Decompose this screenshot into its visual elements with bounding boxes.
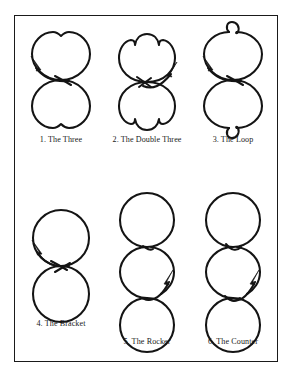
figure-cell-2: 2. The Double Three — [103, 24, 191, 144]
middle-circle-right-path — [237, 247, 260, 294]
bottom-circle — [33, 266, 89, 322]
diagram-the-rocker — [103, 188, 191, 338]
figure-cell-6: 6. The Counter — [189, 188, 277, 346]
diagram-the-double-three — [103, 24, 191, 136]
top-circle — [206, 193, 260, 247]
figure-plate: 1. The Three 2. The Double Three — [14, 15, 278, 362]
figure-cell-3: 3. The Loop — [189, 24, 277, 144]
middle-circle-right-path — [151, 247, 174, 294]
top-lobe-path — [119, 34, 175, 82]
bottom-lobe-path — [32, 80, 90, 128]
figure-art-the-loop — [189, 24, 277, 136]
diagram-the-counter — [189, 188, 277, 338]
middle-circle-left-path — [206, 247, 233, 298]
figure-caption-1: 1. The Three — [17, 136, 105, 144]
figure-caption-2: 2. The Double Three — [103, 136, 191, 144]
figure-caption-5: 5. The Rocker — [103, 338, 191, 346]
bottom-lobe-path — [119, 82, 175, 130]
figure-art-the-double-three — [103, 24, 191, 136]
diagram-the-three — [17, 24, 105, 136]
figure-cell-1: 1. The Three — [17, 24, 105, 144]
top-lobe-right-path — [233, 32, 262, 80]
figure-grid: 1. The Three 2. The Double Three — [15, 16, 277, 361]
figure-art-the-three — [17, 24, 105, 136]
bottom-lobe-right-path — [233, 80, 262, 128]
top-small-loop — [227, 22, 239, 33]
top-lobe-left-path — [204, 32, 233, 80]
diagram-the-bracket — [17, 202, 105, 320]
diagram-the-loop — [189, 24, 277, 136]
figure-cell-5: 5. The Rocker — [103, 188, 191, 346]
arrow-head-icon — [167, 62, 177, 77]
figure-art-the-bracket — [17, 202, 105, 320]
figure-art-the-counter — [189, 188, 277, 338]
figure-caption-6: 6. The Counter — [189, 338, 277, 346]
figure-art-the-rocker — [103, 188, 191, 338]
bottom-lobe-left-path — [204, 80, 233, 128]
figure-cell-4: 4. The Bracket — [17, 202, 105, 328]
middle-circle-left-path — [120, 247, 147, 298]
top-circle — [120, 193, 174, 247]
